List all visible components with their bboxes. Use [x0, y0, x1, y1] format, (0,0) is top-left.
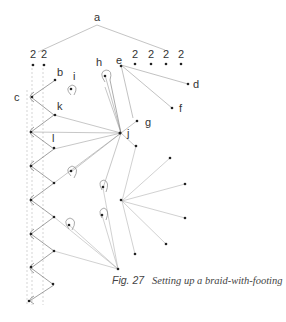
pin-top-1: [32, 64, 35, 67]
pin-j: [119, 132, 122, 135]
top-branch-lines: [38, 25, 165, 52]
figure-caption: Fig. 27Setting up a braid-with-footing: [112, 274, 282, 286]
thread-loops: [66, 70, 121, 230]
threads-lower-fan: [54, 146, 185, 269]
pin-top-5: [165, 63, 168, 66]
caption-text: Setting up a braid-with-footing: [152, 275, 282, 286]
pin-f: [171, 107, 174, 110]
label-d: d: [193, 78, 199, 90]
label-i: i: [73, 70, 75, 82]
pair-count-1: 2: [30, 48, 36, 60]
pin-top-6: [180, 63, 183, 66]
pin-top-2: [43, 64, 46, 67]
label-j: j: [126, 127, 129, 139]
label-c: c: [14, 91, 20, 103]
threads-to-j: [31, 87, 138, 188]
label-f: f: [179, 102, 183, 114]
label-h: h: [96, 56, 102, 68]
pair-count-3: 2: [132, 48, 138, 60]
pair-count-5: 2: [163, 48, 169, 60]
pin-g: [136, 120, 139, 123]
pin-c: [31, 96, 34, 99]
pair-counts: 2 2 2 2 2 2: [30, 48, 184, 60]
figure-number: Fig. 27: [112, 274, 144, 286]
pin-i: [70, 88, 73, 91]
label-b: b: [57, 66, 63, 78]
label-g: g: [145, 116, 151, 128]
pair-count-4: 2: [148, 48, 154, 60]
footing-zigzag: [30, 81, 54, 304]
label-e: e: [116, 54, 122, 66]
label-a: a: [94, 11, 101, 23]
label-l: l: [52, 132, 54, 144]
pin-top-3: [134, 63, 137, 66]
pin-d: [187, 83, 190, 86]
pin-top-4: [150, 63, 153, 66]
pair-count-6: 2: [178, 48, 184, 60]
label-k: k: [57, 100, 63, 112]
pin-k: [54, 114, 57, 117]
pair-count-2: 2: [41, 48, 47, 60]
pin-l: [53, 147, 56, 150]
pin-h: [104, 75, 107, 78]
pin-b: [54, 79, 57, 82]
